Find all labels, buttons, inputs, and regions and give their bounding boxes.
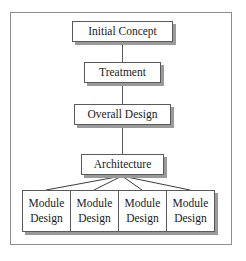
node-initial-concept-label: Initial Concept [88,25,157,38]
node-treatment[interactable]: Treatment [84,62,161,83]
module-design-row: Module Design Module Design Module Desig… [22,190,215,232]
node-module-design-3-line2: Design [126,211,159,226]
node-overall-design-label: Overall Design [88,108,158,121]
node-module-design-3-line1: Module [125,196,161,211]
node-module-design-1[interactable]: Module Design [23,191,71,231]
node-treatment-label: Treatment [99,66,146,79]
node-module-design-2[interactable]: Module Design [71,191,119,231]
fanout-to-module-1 [46,176,122,190]
node-module-design-1-line1: Module [29,196,65,211]
node-architecture-label: Architecture [94,158,151,171]
node-initial-concept[interactable]: Initial Concept [72,21,173,42]
node-overall-design[interactable]: Overall Design [74,104,171,125]
node-architecture[interactable]: Architecture [81,154,164,175]
node-module-design-3[interactable]: Module Design [119,191,167,231]
node-module-design-1-line2: Design [30,211,63,226]
node-module-design-4[interactable]: Module Design [167,191,214,231]
node-module-design-4-line1: Module [173,196,209,211]
diagram-figure: Initial Concept Treatment Overall Design… [0,0,246,261]
node-module-design-4-line2: Design [174,211,207,226]
node-module-design-2-line1: Module [77,196,113,211]
node-module-design-2-line2: Design [78,211,111,226]
